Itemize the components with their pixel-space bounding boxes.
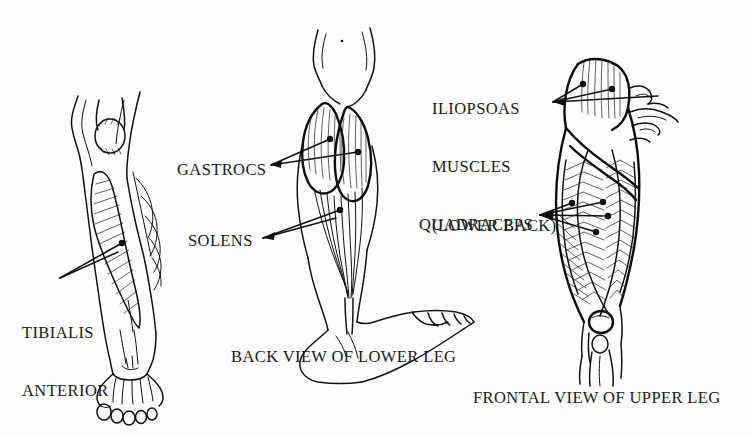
label-iliopsoas-line2: MUSCLES (432, 157, 556, 176)
label-solens: SOLENS (188, 231, 253, 250)
label-iliopsoas-line1: ILIOPSOAS (432, 99, 556, 118)
label-gastrocs: GASTROCS (177, 160, 266, 179)
soleus-fibres (314, 188, 362, 298)
label-quadraceps: QUADRACEPS (419, 215, 533, 234)
label-tibialis-anterior-line2: ANTERIOR (22, 381, 109, 400)
diagram-canvas: TIBIALIS ANTERIOR GASTROCS SOLENS ILIOPS… (0, 0, 752, 436)
right-figure-upper-leg (556, 59, 678, 386)
center-figure-toes (412, 312, 470, 326)
label-iliopsoas-muscles: ILIOPSOAS MUSCLES (LOWER BACK) (432, 60, 556, 274)
label-tibialis-anterior-line1: TIBIALIS (22, 323, 109, 342)
leader-line-tibialis-anterior (60, 240, 125, 278)
label-tibialis-anterior: TIBIALIS ANTERIOR (22, 284, 109, 436)
anatomy-drawing (0, 0, 752, 436)
leader-line-gastrocs (271, 136, 361, 168)
hip-detail-squiggles (630, 86, 678, 142)
caption-right-figure: FRONTAL VIEW OF UPPER LEG (473, 388, 721, 407)
caption-center-figure: BACK VIEW OF LOWER LEG (231, 347, 456, 366)
